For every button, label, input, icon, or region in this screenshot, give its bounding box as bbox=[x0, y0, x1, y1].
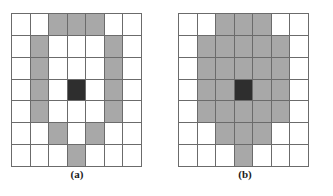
grid-cell bbox=[179, 123, 198, 145]
grid-cell bbox=[12, 145, 31, 167]
grid-cell bbox=[290, 145, 309, 167]
grid-cell bbox=[68, 80, 87, 102]
grid-cell bbox=[31, 14, 50, 36]
grid-cell bbox=[290, 101, 309, 123]
grid-cell bbox=[272, 145, 291, 167]
grid-cell bbox=[105, 123, 124, 145]
grid-cell bbox=[216, 80, 235, 102]
grid-cell bbox=[272, 36, 291, 58]
grid-cell bbox=[272, 80, 291, 102]
grid-cell bbox=[49, 101, 68, 123]
panel-a: (a) bbox=[0, 0, 166, 196]
grid-cell bbox=[290, 58, 309, 80]
grid-cell bbox=[272, 101, 291, 123]
grid-cell bbox=[179, 101, 198, 123]
grid-cell bbox=[105, 145, 124, 167]
grid-cell bbox=[86, 58, 105, 80]
grid-cell bbox=[235, 80, 254, 102]
grid-cell bbox=[253, 58, 272, 80]
grid-cell bbox=[86, 80, 105, 102]
grid-cell bbox=[105, 80, 124, 102]
grid-cell bbox=[68, 58, 87, 80]
grid-cell bbox=[235, 14, 254, 36]
grid-cell bbox=[216, 145, 235, 167]
grid-cell bbox=[123, 123, 142, 145]
grid-cell bbox=[68, 14, 87, 36]
grid-cell bbox=[198, 80, 217, 102]
grid-cell bbox=[31, 101, 50, 123]
grid-cell bbox=[290, 123, 309, 145]
grid-cell bbox=[105, 101, 124, 123]
grid-cell bbox=[123, 36, 142, 58]
grid-cell bbox=[12, 14, 31, 36]
grid-cell bbox=[12, 123, 31, 145]
grid-cell bbox=[49, 58, 68, 80]
grid-cell bbox=[49, 80, 68, 102]
grid-cell bbox=[290, 14, 309, 36]
caption-b: (b) bbox=[162, 168, 328, 180]
grid-cell bbox=[12, 36, 31, 58]
grid-cell bbox=[179, 14, 198, 36]
grid-cell bbox=[253, 145, 272, 167]
grid-cell bbox=[198, 145, 217, 167]
grid-cell bbox=[290, 80, 309, 102]
grid-a bbox=[11, 13, 142, 167]
grid-cell bbox=[216, 101, 235, 123]
grid-cell bbox=[198, 58, 217, 80]
grid-cell bbox=[49, 145, 68, 167]
grid-cell bbox=[31, 58, 50, 80]
figure-container: (a) (b) bbox=[0, 0, 333, 196]
grid-cell bbox=[86, 145, 105, 167]
grid-cell bbox=[123, 14, 142, 36]
grid-cell bbox=[290, 36, 309, 58]
grid-cell bbox=[198, 36, 217, 58]
grid-cell bbox=[86, 123, 105, 145]
grid-cell bbox=[86, 14, 105, 36]
grid-cell bbox=[198, 123, 217, 145]
grid-cell bbox=[235, 36, 254, 58]
grid-cell bbox=[216, 123, 235, 145]
grid-cell bbox=[31, 145, 50, 167]
grid-cell bbox=[49, 14, 68, 36]
grid-cell bbox=[68, 145, 87, 167]
grid-cell bbox=[105, 58, 124, 80]
grid-cell bbox=[179, 36, 198, 58]
grid-cell bbox=[272, 123, 291, 145]
grid-cell bbox=[68, 36, 87, 58]
grid-cell bbox=[253, 14, 272, 36]
grid-cell bbox=[253, 36, 272, 58]
grid-cell bbox=[31, 36, 50, 58]
grid-cell bbox=[179, 80, 198, 102]
grid-cell bbox=[49, 123, 68, 145]
grid-cell bbox=[272, 14, 291, 36]
grid-cell bbox=[235, 101, 254, 123]
grid-cell bbox=[253, 123, 272, 145]
grid-cell bbox=[198, 101, 217, 123]
grid-cell bbox=[235, 145, 254, 167]
grid-cell bbox=[216, 14, 235, 36]
grid-cell bbox=[12, 80, 31, 102]
grid-cell bbox=[179, 145, 198, 167]
grid-cell bbox=[68, 101, 87, 123]
grid-cell bbox=[12, 58, 31, 80]
grid-cell bbox=[105, 14, 124, 36]
grid-cell bbox=[235, 58, 254, 80]
grid-cell bbox=[123, 80, 142, 102]
grid-cell bbox=[31, 123, 50, 145]
grid-cell bbox=[253, 80, 272, 102]
grid-cell bbox=[123, 101, 142, 123]
grid-cell bbox=[198, 14, 217, 36]
grid-cell bbox=[68, 123, 87, 145]
grid-cell bbox=[216, 58, 235, 80]
grid-cell bbox=[12, 101, 31, 123]
caption-a: (a) bbox=[0, 168, 160, 180]
grid-cell bbox=[235, 123, 254, 145]
grid-cell bbox=[86, 101, 105, 123]
grid-cell bbox=[179, 58, 198, 80]
panel-b: (b) bbox=[166, 0, 332, 196]
grid-cell bbox=[31, 80, 50, 102]
grid-cell bbox=[123, 58, 142, 80]
grid-cell bbox=[105, 36, 124, 58]
grid-cell bbox=[49, 36, 68, 58]
grid-b bbox=[178, 13, 309, 167]
